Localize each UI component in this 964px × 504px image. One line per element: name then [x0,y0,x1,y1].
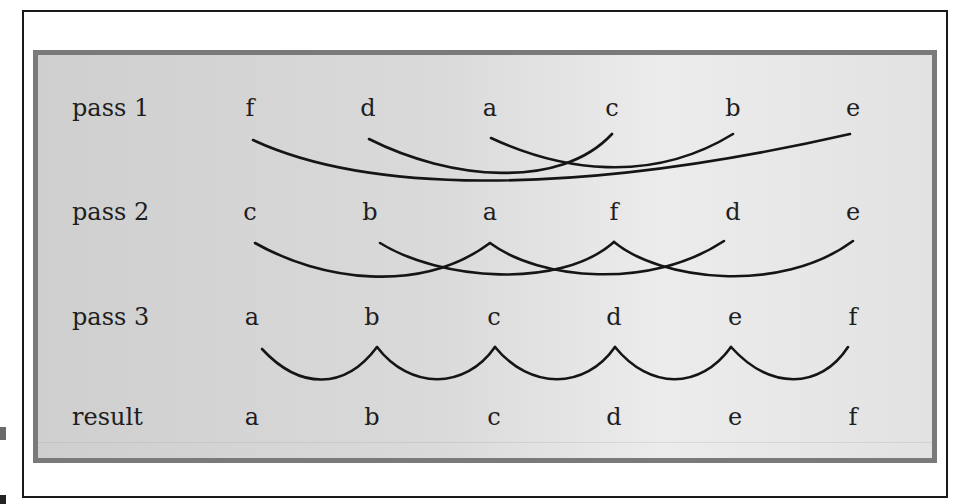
pass-3-letter: b [364,305,379,329]
top-page-bleed [60,0,200,4]
result-letter: e [728,405,742,429]
pass-1-letter: d [360,96,375,120]
pass-2-letter: b [362,200,377,224]
pass-3-letter: f [849,305,858,329]
left-edge-mark [0,427,6,440]
result-letter: d [606,405,621,429]
pass-2-letter: f [610,200,619,224]
pass-2-letter: a [483,200,497,224]
left-edge-mark [0,495,6,504]
pass-1-letter: c [605,96,618,120]
result-letter: b [364,405,379,429]
pass-1-letter: b [725,96,740,120]
pass-2-letter: d [725,200,740,224]
pass-1-letter: a [483,96,497,120]
pass-3-letter: c [487,305,500,329]
pass-2-letter: c [243,200,256,224]
result-letter: f [849,405,858,429]
scan-line [38,442,932,443]
row-label-pass-3: pass 3 [72,305,149,329]
row-label-pass-1: pass 1 [72,96,149,120]
result-letter: a [245,405,259,429]
row-label-pass-2: pass 2 [72,200,149,224]
pass-2-letter: e [846,200,860,224]
pass-1-letter: f [246,96,255,120]
row-label-result: result [72,405,143,429]
result-letter: c [487,405,500,429]
pass-3-letter: e [728,305,742,329]
pass-3-letter: a [245,305,259,329]
pass-1-letter: e [846,96,860,120]
pass-3-letter: d [606,305,621,329]
